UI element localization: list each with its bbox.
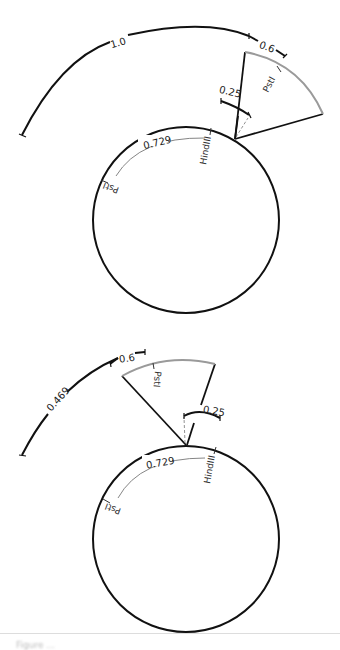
plasmid-circle: [93, 127, 279, 313]
site-label-pstI-left: PstI: [102, 180, 121, 195]
bracket-stem: [187, 423, 194, 445]
outer-arc-long: [22, 42, 110, 135]
outer-arc-short-label: 0.6: [258, 39, 277, 55]
plasmid-restriction-map-figure: 0.729 PstI HindIII PstI 0.25 1.0 0.6: [0, 0, 340, 650]
bracket-label: 0.25: [202, 404, 226, 419]
outer-arc-short: [249, 36, 258, 41]
wedge-site-tick: [277, 66, 281, 72]
diagram-top: 0.729 PstI HindIII PstI 0.25 1.0 0.6: [19, 27, 323, 313]
bracket-label: 0.25: [218, 84, 242, 100]
plasmid-circle: [93, 446, 279, 632]
dashed-guide: [184, 417, 185, 443]
wedge-right-edge: [235, 114, 323, 139]
outer-arc-long-label: 0.469: [44, 385, 71, 414]
bracket-arc: [221, 101, 249, 115]
outer-arc-long-label: 1.0: [109, 35, 127, 50]
caption-divider: [0, 633, 340, 634]
wedge-outer-arc: [122, 360, 215, 376]
outer-arc-short-label: 0.6: [118, 352, 135, 365]
site-tick-hindIII: [210, 128, 211, 135]
wedge-site-label: PstI: [152, 371, 163, 388]
site-label-pstI-left: PstI: [104, 501, 123, 516]
diagram-bottom: 0.729 PstI HindIII PstI 0.25 0.469 0.6: [19, 349, 279, 632]
outer-arc-long: [22, 414, 48, 455]
wedge-right-edge: [201, 364, 215, 405]
wedge-outer-arc: [245, 52, 323, 114]
site-label-hindIII: HindIII: [198, 135, 213, 165]
site-label-hindIII: HindIII: [202, 454, 217, 484]
wedge-site-label: PstI: [261, 75, 277, 94]
figure-caption: Figure ...: [16, 640, 316, 650]
